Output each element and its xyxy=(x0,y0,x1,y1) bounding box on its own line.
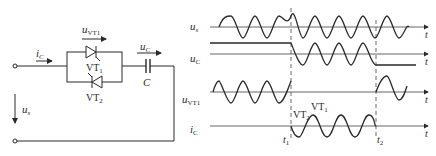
ic-row-label: iC xyxy=(190,123,198,137)
uvt1-waveform xyxy=(213,76,407,103)
thyristor-switched-capacitor-figure: iC uVT1 VT1 VT2 uC C us us uC uVT1 iC xyxy=(0,0,436,156)
uc-row-label: uC xyxy=(190,52,201,66)
uc-time-label: t xyxy=(425,56,428,67)
capacitor-label: C xyxy=(143,76,151,88)
vt1-conduction-label: VT1 xyxy=(311,101,328,114)
t2-label: t2 xyxy=(377,134,384,147)
us-time-label: t xyxy=(425,29,428,40)
t1-label: t1 xyxy=(283,134,290,147)
thyristor2-label: VT2 xyxy=(86,92,103,105)
source-voltage-label: us xyxy=(22,103,31,117)
input-terminal-bottom xyxy=(13,139,17,143)
thyristor-voltage-label: uVT1 xyxy=(82,23,101,37)
uvt1-time-label: t xyxy=(425,94,428,105)
uvt1-row-label: uVT1 xyxy=(182,93,201,107)
us-row-label: us xyxy=(190,20,199,34)
current-label: iC xyxy=(36,47,44,61)
thyristor-vt1-icon xyxy=(86,46,100,61)
input-terminal-top xyxy=(13,64,17,68)
us-waveform xyxy=(219,14,409,38)
capacitor-voltage-label: uC xyxy=(140,40,151,54)
ic-time-label: t xyxy=(425,128,428,139)
capacitor-icon xyxy=(146,59,150,73)
vt2-conduction-label: VT2 xyxy=(293,109,310,122)
waveform-panel xyxy=(210,8,428,138)
thyristor-vt2-icon xyxy=(88,73,102,88)
